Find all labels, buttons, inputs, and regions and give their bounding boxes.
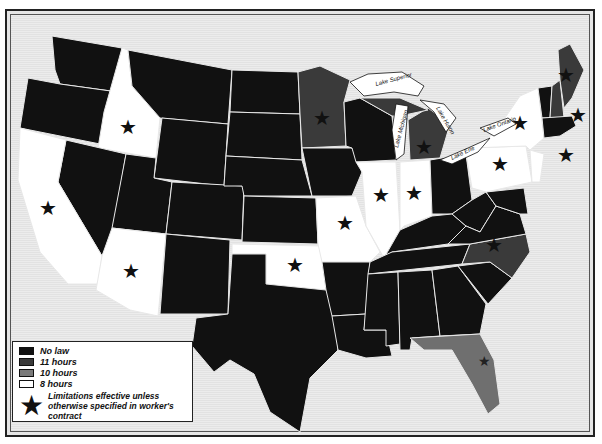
legend-label: 8 hours	[40, 379, 73, 389]
star-icon-oklahoma: ★	[286, 254, 304, 276]
state-iowa	[302, 148, 362, 196]
star-icon-pennsylvania: ★	[491, 153, 509, 175]
state-south-dakota	[226, 112, 302, 160]
legend: No law 11 hours 10 hours 8 hours ★ Limit…	[12, 341, 193, 422]
legend-label: 10 hours	[40, 368, 78, 378]
star-icon-idaho: ★	[119, 116, 137, 138]
legend-swatch	[19, 358, 34, 366]
star-icon-minnesota: ★	[313, 107, 331, 129]
legend-label: 11 hours	[40, 357, 77, 367]
star-icon-florida: ★	[478, 353, 491, 369]
star-icon-indiana: ★	[405, 182, 423, 204]
legend-swatch	[19, 347, 34, 355]
state-colorado	[166, 182, 244, 240]
state-kansas	[242, 196, 318, 244]
star-icon-michigan: ★	[415, 136, 433, 158]
star-icon-new-jersey: ★	[557, 144, 575, 166]
star-icon-maine: ★	[557, 64, 575, 86]
legend-star-note: Limitations effective unless otherwise s…	[48, 391, 186, 421]
star-icon: ★	[19, 393, 44, 419]
legend-swatch	[19, 380, 34, 388]
legend-item-8-hours: 8 hours	[19, 378, 186, 389]
legend-item-11-hours: 11 hours	[19, 356, 186, 367]
legend-label: No law	[40, 346, 69, 356]
star-icon-north-carolina: ★	[485, 234, 503, 256]
state-new-mexico	[160, 234, 230, 314]
state-new-jersey	[530, 150, 544, 182]
legend-swatch	[19, 369, 34, 377]
star-icon-illinois: ★	[372, 184, 390, 206]
state-north-dakota	[230, 70, 300, 114]
star-icon-new-york: ★	[511, 112, 529, 134]
star-icon-new-hampshire: ★	[569, 104, 587, 126]
state-wyoming	[154, 118, 228, 186]
star-icon-california: ★	[39, 197, 57, 219]
legend-item-10-hours: 10 hours	[19, 367, 186, 378]
star-icon-missouri: ★	[336, 212, 354, 234]
state-florida	[410, 334, 500, 414]
legend-item-no-law: No law	[19, 345, 186, 356]
legend-item-star: ★ Limitations effective unless otherwise…	[19, 391, 186, 421]
star-icon-arizona: ★	[122, 260, 140, 282]
